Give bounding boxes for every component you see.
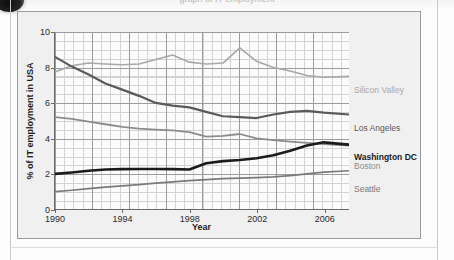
y-axis-title-text: % of IT employment in USA <box>25 62 35 179</box>
x-axis-title: Year <box>54 222 349 232</box>
line-silicon-valley <box>55 48 349 77</box>
plot-area: 024681019901994199820022006 <box>54 32 349 210</box>
y-tick-mark <box>51 32 55 33</box>
line-washington-dc <box>55 142 349 174</box>
line-boston <box>55 117 349 145</box>
legend-label-silicon-valley: Silicon Valley <box>354 86 404 95</box>
x-tick-mark <box>257 209 258 213</box>
y-tick-mark <box>51 68 55 69</box>
series-lines <box>55 32 349 209</box>
legend-label-boston: Boston <box>354 162 380 171</box>
y-tick-label: 10 <box>40 27 50 37</box>
y-tick-label: 8 <box>45 63 50 73</box>
legend-label-seattle: Seattle <box>354 185 380 194</box>
page-top-strip: graph of IT employment <box>0 0 454 9</box>
page-rule-left <box>10 0 11 260</box>
y-tick-label: 2 <box>45 169 50 179</box>
y-tick-label: 6 <box>45 98 50 108</box>
x-tick-mark <box>190 209 191 213</box>
page-rule-right <box>437 0 438 260</box>
screenshot-page: graph of IT employment % of IT employmen… <box>0 0 454 260</box>
legend-label-los-angeles: Los Angeles <box>354 124 400 133</box>
cropped-heading-text: graph of IT employment <box>0 0 454 4</box>
line-los-angeles <box>55 57 349 118</box>
y-tick-mark <box>51 139 55 140</box>
line-seattle <box>55 171 349 192</box>
x-tick-mark <box>55 209 56 213</box>
y-tick-label: 4 <box>45 134 50 144</box>
chart-figure-box: % of IT employment in USA 02468101990199… <box>17 11 421 239</box>
y-axis-title: % of IT employment in USA <box>23 32 36 210</box>
y-tick-mark <box>51 174 55 175</box>
page-rule-bottom <box>10 247 438 248</box>
x-tick-mark <box>325 209 326 213</box>
y-tick-mark <box>51 103 55 104</box>
x-tick-mark <box>122 209 123 213</box>
